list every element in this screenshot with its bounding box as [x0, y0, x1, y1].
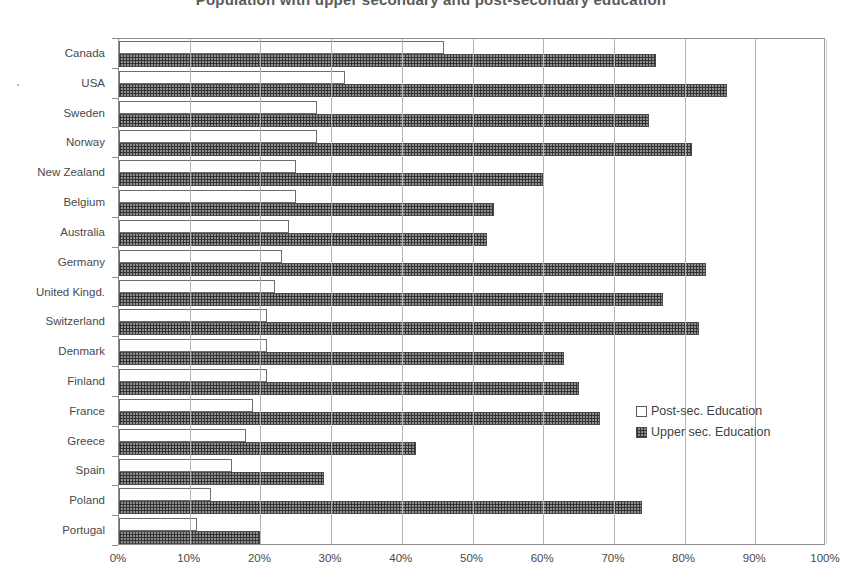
bar-post-sec[interactable] [119, 399, 253, 412]
bar-row [119, 516, 824, 546]
gridline-60 [543, 39, 544, 544]
bar-post-sec[interactable] [119, 459, 232, 472]
x-axis-label: 10% [177, 552, 200, 564]
bar-post-sec[interactable] [119, 488, 211, 501]
bar-post-sec[interactable] [119, 369, 267, 382]
legend-item-upper-sec[interactable]: Upper sec. Education [636, 425, 832, 439]
bar-row [119, 39, 824, 69]
empty-square-icon [636, 406, 647, 417]
bar-row [119, 158, 824, 188]
x-axis-label: 80% [672, 552, 695, 564]
bar-upper-sec[interactable] [119, 352, 564, 365]
plot-area [118, 38, 825, 545]
y-axis-label: Portugal [62, 524, 105, 536]
bar-upper-sec[interactable] [119, 54, 656, 67]
y-axis-label: Germany [58, 256, 105, 268]
legend: Post-sec. Education Upper sec. Education [636, 404, 832, 446]
gridline-100 [826, 39, 827, 544]
gridline-50 [473, 39, 474, 544]
bar-post-sec[interactable] [119, 339, 267, 352]
legend-label: Upper sec. Education [651, 425, 771, 439]
x-axis-label: 40% [389, 552, 412, 564]
y-axis-tick [112, 545, 118, 546]
legend-label: Post-sec. Education [651, 404, 762, 418]
bar-upper-sec[interactable] [119, 143, 692, 156]
bar-row [119, 457, 824, 487]
bar-row [119, 367, 824, 397]
bar-post-sec[interactable] [119, 250, 282, 263]
y-axis-label: Switzerland [46, 315, 105, 327]
x-axis-label: 100% [810, 552, 839, 564]
y-axis-label: Spain [76, 464, 105, 476]
bar-upper-sec[interactable] [119, 322, 699, 335]
y-axis: CanadaUSASwedenNorwayNew ZealandBelgiumA… [0, 38, 113, 545]
gridline-10 [190, 39, 191, 544]
bar-post-sec[interactable] [119, 130, 317, 143]
bar-post-sec[interactable] [119, 518, 197, 531]
bar-row [119, 188, 824, 218]
bar-upper-sec[interactable] [119, 501, 642, 514]
gridline-20 [260, 39, 261, 544]
bar-upper-sec[interactable] [119, 412, 600, 425]
bar-post-sec[interactable] [119, 71, 345, 84]
chart-title-strip: Population with upper secondary and post… [0, 0, 862, 12]
y-axis-label: Norway [66, 136, 105, 148]
bar-upper-sec[interactable] [119, 114, 649, 127]
bar-chart: Population with upper secondary and post… [0, 0, 862, 582]
bar-row [119, 218, 824, 248]
y-axis-label: Finland [67, 375, 105, 387]
bar-row [119, 486, 824, 516]
y-axis-label: Belgium [63, 196, 105, 208]
bar-upper-sec[interactable] [119, 84, 727, 97]
chart-title: Population with upper secondary and post… [0, 0, 862, 8]
gridline-40 [402, 39, 403, 544]
x-axis-label: 0% [110, 552, 127, 564]
bar-upper-sec[interactable] [119, 293, 663, 306]
bar-post-sec[interactable] [119, 160, 296, 173]
bar-post-sec[interactable] [119, 190, 296, 203]
y-axis-label: Sweden [63, 107, 105, 119]
bar-row [119, 337, 824, 367]
y-axis-label: United Kingd. [36, 286, 105, 298]
bar-upper-sec[interactable] [119, 472, 324, 485]
x-axis-label: 60% [531, 552, 554, 564]
bar-post-sec[interactable] [119, 429, 246, 442]
y-axis-label: USA [81, 77, 105, 89]
checkered-square-icon [636, 427, 647, 438]
y-axis-label: Australia [60, 226, 105, 238]
bar-row [119, 99, 824, 129]
gridline-90 [755, 39, 756, 544]
x-axis-label: 50% [460, 552, 483, 564]
y-axis-label: Canada [65, 47, 105, 59]
bar-post-sec[interactable] [119, 220, 289, 233]
x-axis: 0%10%20%30%40%50%60%70%80%90%100% [0, 552, 862, 572]
bar-row [119, 69, 824, 99]
x-axis-label: 20% [248, 552, 271, 564]
bar-post-sec[interactable] [119, 309, 267, 322]
bar-row [119, 278, 824, 308]
bar-upper-sec[interactable] [119, 442, 416, 455]
y-axis-label: Poland [69, 494, 105, 506]
bar-post-sec[interactable] [119, 41, 444, 54]
bar-upper-sec[interactable] [119, 263, 706, 276]
x-axis-label: 90% [743, 552, 766, 564]
y-axis-label: Greece [67, 435, 105, 447]
bar-row [119, 128, 824, 158]
gridline-30 [331, 39, 332, 544]
gridline-70 [614, 39, 615, 544]
bar-post-sec[interactable] [119, 101, 317, 114]
bar-row [119, 307, 824, 337]
y-axis-label: Denmark [58, 345, 105, 357]
bar-row [119, 248, 824, 278]
bar-upper-sec[interactable] [119, 233, 487, 246]
bar-upper-sec[interactable] [119, 203, 494, 216]
bar-post-sec[interactable] [119, 280, 275, 293]
bar-upper-sec[interactable] [119, 382, 579, 395]
gridline-80 [685, 39, 686, 544]
legend-item-post-sec[interactable]: Post-sec. Education [636, 404, 832, 418]
x-axis-label: 70% [601, 552, 624, 564]
bar-rows [119, 39, 824, 544]
y-axis-label: France [69, 405, 105, 417]
x-axis-label: 30% [319, 552, 342, 564]
y-axis-label: New Zealand [37, 166, 105, 178]
